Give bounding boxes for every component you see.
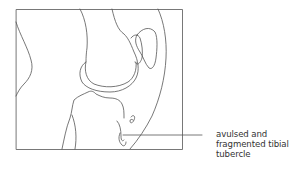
figure-frame [17,10,183,150]
soft-tissue-left-outline [16,22,32,96]
bone-fragment-small [130,116,135,123]
tibia-shaft-line [72,115,76,149]
patella-outline [136,28,157,68]
annotation-line-3: tubercle [216,149,289,159]
tubercle-fragment [117,121,124,141]
femoral-condyle-inner [85,62,136,87]
annotation-line-2: fragmented tibial [216,139,289,149]
tibia-outline [62,91,124,149]
annotation-line-1: avulsed and [216,129,289,139]
annotation-label: avulsed and fragmented tibial tubercle [216,129,289,159]
